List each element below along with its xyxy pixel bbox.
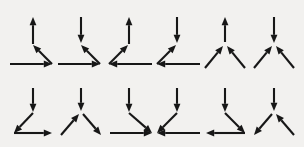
junction-11 [206, 88, 245, 136]
vertical-up-arrow-head [30, 17, 37, 25]
diagonal-down-left-arrow-shaft [163, 113, 177, 127]
junction-12 [254, 88, 294, 135]
horizontal-right-arrow-head [44, 130, 52, 137]
diagonal-down-right-arrow-shaft [129, 113, 146, 128]
junction-7 [14, 88, 52, 136]
arrow-canvas [0, 0, 304, 147]
junction-1 [10, 17, 52, 67]
junction-6 [254, 17, 294, 68]
junction-9 [110, 88, 152, 136]
vertical-down-arrow-head [126, 104, 133, 112]
vertical-up-arrow-head [222, 17, 229, 25]
vertical-down-arrow-head [271, 35, 278, 43]
diagonal-up-right-arrow-shaft [61, 120, 74, 135]
vertical-down-arrow-head [30, 104, 37, 112]
vertical-down-arrow-head [174, 35, 181, 43]
diagonal-up-left-arrow-shaft [281, 120, 294, 135]
figure-sheet [0, 0, 304, 147]
diagonal-up-right-arrow-shaft [205, 52, 218, 68]
junction-10 [157, 88, 200, 136]
diagonal-up-left-arrow-shaft [232, 52, 245, 68]
junction-2 [58, 17, 100, 67]
diagonal-down-right-arrow-shaft [225, 113, 239, 127]
vertical-down-arrow-head [78, 103, 85, 111]
diagonal-up-right-arrow-shaft [254, 52, 267, 68]
junction-3 [109, 17, 152, 67]
vertical-down-arrow-head [271, 103, 278, 111]
junction-4 [157, 17, 200, 67]
diagonal-down-left-arrow-shaft [259, 114, 272, 129]
diagonal-down-right-arrow-shaft [83, 114, 96, 129]
vertical-down-arrow-head [78, 35, 85, 43]
junction-8 [61, 88, 101, 135]
diagonal-down-left-arrow-shaft [20, 113, 33, 127]
diagonal-up-left-arrow-shaft [281, 52, 294, 68]
junction-5 [205, 17, 245, 68]
vertical-down-arrow-head [174, 104, 181, 112]
horizontal-left-arrow-head [206, 130, 214, 137]
vertical-down-arrow-head [222, 104, 229, 112]
vertical-up-arrow-head [126, 17, 133, 25]
